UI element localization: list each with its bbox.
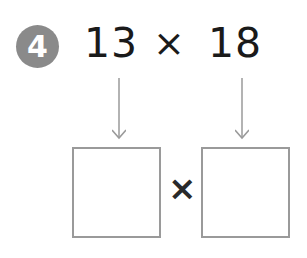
arrow-down-icon bbox=[235, 78, 249, 140]
answer-box-2[interactable] bbox=[201, 147, 290, 238]
operand-2: 18 bbox=[208, 18, 262, 68]
multiply-sign-answer: × bbox=[168, 168, 197, 208]
arrow-down-icon bbox=[112, 78, 126, 140]
multiply-sign: × bbox=[153, 18, 186, 68]
problem-number-badge: 4 bbox=[16, 25, 59, 68]
answer-box-1[interactable] bbox=[72, 147, 161, 238]
operand-1: 13 bbox=[84, 18, 138, 68]
